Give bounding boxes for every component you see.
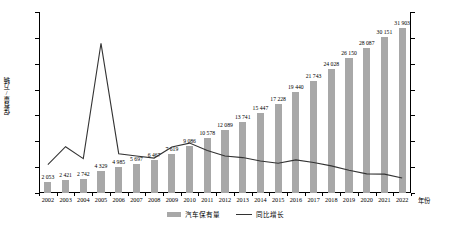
legend-line-swatch-icon	[236, 214, 252, 215]
chart-container: 保有量/万辆 年份 05 00010 00015 00020 00025 000…	[0, 0, 450, 231]
x-tick	[198, 193, 199, 196]
x-tick-label: 2015	[272, 196, 284, 203]
x-tick	[305, 193, 306, 196]
x-tick-label: 2006	[113, 196, 125, 203]
y-tick-right	[411, 12, 415, 13]
x-tick	[110, 193, 111, 196]
x-tick	[393, 193, 394, 196]
x-tick-label: 2018	[325, 196, 337, 203]
legend-label-bar: 汽车保有量	[185, 209, 220, 219]
line-series	[39, 12, 411, 193]
x-tick-label: 2019	[343, 196, 355, 203]
x-tick	[181, 193, 182, 196]
x-tick-label: 2003	[59, 196, 71, 203]
x-tick	[234, 193, 235, 196]
x-tick-label: 2014	[254, 196, 266, 203]
x-tick	[128, 193, 129, 196]
x-tick	[340, 193, 341, 196]
y-tick-right	[411, 90, 415, 91]
y-tick-right	[411, 64, 415, 65]
x-tick-label: 2009	[166, 196, 178, 203]
x-tick-label: 2016	[290, 196, 302, 203]
x-tick	[163, 193, 164, 196]
x-tick-label: 2022	[396, 196, 408, 203]
x-tick	[39, 193, 40, 196]
x-tick	[74, 193, 75, 196]
y-tick-right	[411, 38, 415, 39]
x-tick	[57, 193, 58, 196]
legend-label-line: 同比增长	[256, 209, 284, 219]
legend-item-line: 同比增长	[236, 209, 284, 219]
x-tick	[145, 193, 146, 196]
y-axis-title: 保有量/万辆	[2, 78, 11, 115]
x-tick-label: 2002	[42, 196, 54, 203]
y-tick-right	[411, 167, 415, 168]
x-tick-label: 2011	[201, 196, 213, 203]
x-tick	[92, 193, 93, 196]
x-tick	[411, 193, 412, 196]
x-tick-label: 2020	[361, 196, 373, 203]
plot-area: 05 00010 00015 00020 00025 00030 00035 0…	[39, 12, 411, 193]
x-tick	[358, 193, 359, 196]
x-tick-label: 2005	[95, 196, 107, 203]
x-tick	[322, 193, 323, 196]
y-tick-right	[411, 141, 415, 142]
growth-rate-line	[48, 43, 402, 178]
x-tick	[252, 193, 253, 196]
x-tick	[376, 193, 377, 196]
x-tick-label: 2013	[237, 196, 249, 203]
legend-bar-swatch-icon	[167, 212, 181, 217]
x-tick	[269, 193, 270, 196]
y-tick-right	[411, 115, 415, 116]
x-tick	[287, 193, 288, 196]
x-tick-label: 2010	[183, 196, 195, 203]
legend-item-bar: 汽车保有量	[167, 209, 220, 219]
x-tick-label: 2007	[130, 196, 142, 203]
x-tick-label: 2012	[219, 196, 231, 203]
x-tick-label: 2021	[378, 196, 390, 203]
x-tick	[216, 193, 217, 196]
x-axis-title: 年份	[418, 196, 430, 205]
x-tick-label: 2008	[148, 196, 160, 203]
x-tick-label: 2017	[307, 196, 319, 203]
x-tick-label: 2004	[77, 196, 89, 203]
chart-legend: 汽车保有量 同比增长	[0, 209, 450, 219]
